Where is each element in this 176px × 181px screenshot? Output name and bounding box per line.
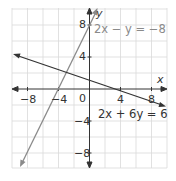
x-tick-4: 4 xyxy=(117,94,124,105)
y-tick-4: 4 xyxy=(79,51,86,62)
line2-arrow-left-icon xyxy=(13,54,21,59)
x-axis-arrow-left-icon xyxy=(12,87,18,92)
equation-label-line1: 2x − y = −8 xyxy=(94,24,166,35)
y-axis-arrow-down-icon xyxy=(87,162,92,168)
x-tick-neg4: −4 xyxy=(51,94,67,105)
x-tick-8: 8 xyxy=(148,94,155,105)
origin-label: 0 xyxy=(79,93,86,104)
y-axis-label: y xyxy=(96,8,103,19)
equation-label-line2: 2x + 6y = 6 xyxy=(98,109,167,120)
y-tick-neg4: −4 xyxy=(74,116,90,127)
x-axis-arrow-right-icon xyxy=(161,87,167,92)
y-tick-8: 8 xyxy=(79,19,86,30)
line1-arrow-down-icon xyxy=(20,160,26,168)
x-tick-neg8: −8 xyxy=(20,94,36,105)
y-tick-neg8: −8 xyxy=(74,148,90,159)
x-axis-label: x xyxy=(157,74,164,85)
